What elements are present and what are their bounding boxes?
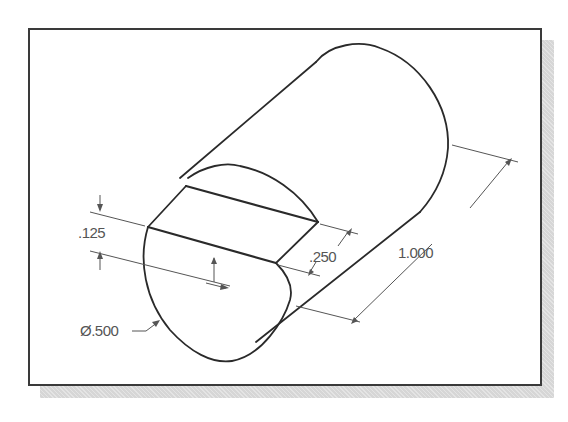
front-upper-arc [188,165,318,223]
upper-generator-line [180,62,316,178]
flat-top-edge [186,186,318,222]
dimension-flat-length: .250 [309,248,336,265]
ext-line-1000-top [452,145,518,162]
cylinder-drawing: .125 .250 1.000 Ø.500 [0,0,568,422]
dimension-flat-depth: .125 [78,224,105,241]
dimension-diameter: Ø.500 [80,322,119,339]
ext-line-1000-bottom [296,306,360,322]
back-end-arc [316,44,448,212]
flat-left-edge [148,186,186,227]
flat-front-edge [148,227,276,263]
dimension-overall-length: 1.000 [398,244,433,261]
ext-line-125-bottom [90,251,230,286]
ext-line-250-top [320,224,358,234]
